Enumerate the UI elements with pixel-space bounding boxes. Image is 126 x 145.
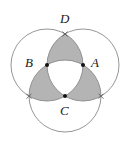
point-a	[81, 63, 85, 67]
point-b	[45, 63, 49, 67]
three-circles-diagram: D B A C	[0, 0, 126, 145]
label-b: B	[25, 55, 33, 70]
label-c: C	[60, 103, 69, 118]
label-d: D	[59, 11, 70, 26]
label-a: A	[90, 55, 99, 70]
point-c	[63, 94, 67, 98]
